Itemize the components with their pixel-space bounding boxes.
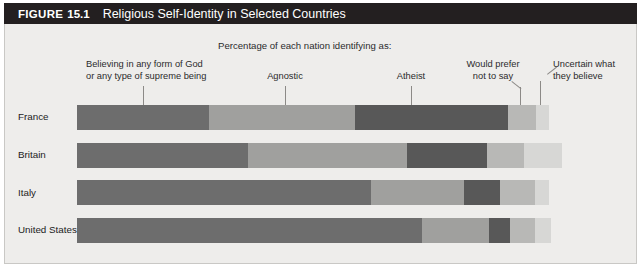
legend-label-believing-line2: or any type of supreme being (86, 71, 206, 83)
row-label-united-states: United States (18, 224, 77, 235)
bar-segment-agnostic[interactable] (209, 105, 355, 130)
row-label-italy: Italy (18, 187, 36, 198)
figure-container: FIGURE 15.1 Religious Self-Identity in S… (0, 0, 641, 272)
leader-line-atheist (411, 86, 412, 105)
legend-label-uncertain: Uncertain what they believe (553, 59, 615, 82)
legend-label-uncertain-line1: Uncertain what (553, 59, 615, 71)
legend-label-prefer-not-to-say: Would prefer not to say (455, 59, 531, 82)
bar-segment-agnostic[interactable] (248, 143, 407, 168)
bar-segment-prefer[interactable] (508, 105, 536, 130)
bar-segment-atheist[interactable] (355, 105, 508, 130)
chart-subtitle: Percentage of each nation identifying as… (218, 40, 391, 51)
legend-label-agnostic: Agnostic (240, 71, 330, 83)
bar-segment-believing[interactable] (77, 105, 209, 130)
legend-label-prefer-line2: not to say (455, 71, 531, 83)
stacked-bar-france[interactable] (77, 105, 549, 130)
leader-line-believing (143, 86, 144, 105)
bar-segment-prefer[interactable] (500, 180, 535, 205)
legend-label-atheist: Atheist (380, 71, 442, 83)
bar-segment-atheist[interactable] (407, 143, 487, 168)
bar-segment-believing[interactable] (77, 180, 371, 205)
legend-label-believing: Believing in any form of God or any type… (86, 59, 206, 82)
bar-segment-atheist[interactable] (489, 218, 510, 243)
bar-segment-uncertain[interactable] (535, 218, 551, 243)
leader-line-uncertain (540, 81, 541, 105)
bar-segment-prefer[interactable] (487, 143, 524, 168)
row-label-britain: Britain (18, 149, 46, 160)
stacked-bar-united-states[interactable] (77, 218, 551, 243)
stacked-bar-italy[interactable] (77, 180, 549, 205)
bar-segment-prefer[interactable] (510, 218, 535, 243)
bar-segment-agnostic[interactable] (371, 180, 464, 205)
bar-segment-believing[interactable] (77, 143, 248, 168)
leader-line-agnostic (285, 86, 286, 105)
legend-label-uncertain-line2: they believe (553, 71, 615, 83)
stacked-bar-britain[interactable] (77, 143, 562, 168)
bar-segment-uncertain[interactable] (536, 105, 549, 130)
bar-segment-uncertain[interactable] (524, 143, 562, 168)
bar-segment-atheist[interactable] (464, 180, 500, 205)
bar-segment-believing[interactable] (77, 218, 422, 243)
row-label-france: France (18, 111, 49, 122)
leader-line-prefer (520, 87, 521, 105)
legend-label-believing-line1: Believing in any form of God (86, 59, 206, 71)
chart-plot-area: Percentage of each nation identifying as… (0, 0, 641, 272)
bar-segment-uncertain[interactable] (535, 180, 549, 205)
legend-label-prefer-line1: Would prefer (455, 59, 531, 71)
bar-segment-agnostic[interactable] (422, 218, 489, 243)
